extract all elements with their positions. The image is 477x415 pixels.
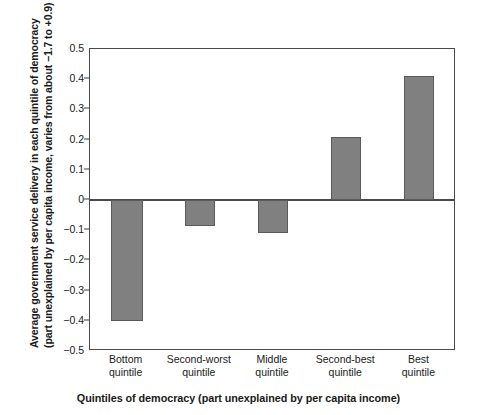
y-tick-label: 0.1: [52, 164, 84, 175]
bar-2: [185, 200, 215, 226]
bar-5: [404, 76, 434, 200]
y-tick-label: −0.2: [52, 254, 84, 265]
y-tick-label: 0.2: [52, 133, 84, 144]
bar-1: [111, 200, 143, 321]
y-tick-label: 0.4: [52, 73, 84, 84]
y-tick-label: 0: [52, 194, 84, 205]
x-axis-title: Quintiles of democracy (part unexplained…: [0, 392, 477, 404]
y-tick-label: 0.3: [52, 103, 84, 114]
y-tick-label: −0.4: [52, 315, 84, 326]
bar-4: [331, 137, 361, 200]
y-tick-label: −0.3: [52, 284, 84, 295]
chart-figure: Average government service delivery in e…: [0, 0, 477, 415]
x-tick-label-5: Bestquintile: [363, 353, 473, 380]
bar-3: [258, 200, 288, 233]
plot-area: [89, 48, 455, 350]
y-tick-label: 0.5: [52, 43, 84, 54]
y-tick-label: −0.1: [52, 224, 84, 235]
y-axis-title: Average government service delivery in e…: [0, 0, 56, 350]
x-tick-label-line: quintile: [363, 366, 473, 379]
y-axis-title-line-1: Average government service delivery in e…: [29, 18, 40, 348]
x-tick-label-line: Best: [363, 353, 473, 366]
